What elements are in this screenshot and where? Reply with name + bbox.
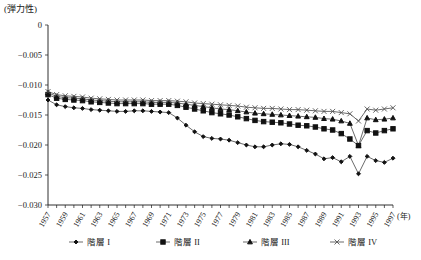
data-point-marker	[296, 123, 300, 127]
data-point-marker	[382, 160, 386, 164]
data-point-marker	[382, 128, 386, 132]
legend-label: 階層 IV	[348, 237, 378, 247]
data-point-marker	[322, 157, 326, 161]
data-point-marker	[270, 120, 274, 124]
data-point-marker	[248, 239, 253, 243]
data-point-marker	[235, 108, 240, 112]
y-tick-label: 0	[38, 20, 42, 30]
data-point-marker	[244, 109, 249, 113]
data-point-marker	[296, 114, 301, 118]
data-point-marker	[74, 240, 78, 244]
x-tick-label: 1993	[347, 211, 363, 229]
data-point-marker	[313, 152, 317, 156]
data-point-marker	[63, 105, 67, 109]
data-point-marker	[167, 111, 171, 115]
legend-label: 階層 II	[174, 237, 200, 247]
data-point-marker	[270, 112, 275, 116]
data-point-marker	[210, 136, 214, 140]
x-tick-label: 1961	[71, 211, 87, 229]
data-point-marker	[270, 143, 274, 147]
legend-label: 階層 I	[87, 237, 110, 247]
data-point-marker	[279, 121, 283, 125]
data-point-marker	[339, 118, 344, 122]
data-point-marker	[244, 143, 248, 147]
y-tick-label: −0.010	[18, 80, 42, 90]
legend-label: 階層 III	[261, 237, 290, 247]
data-point-marker	[391, 127, 395, 131]
data-point-marker	[81, 106, 85, 110]
data-point-marker	[279, 142, 283, 146]
data-point-marker	[236, 141, 240, 145]
data-point-marker	[278, 112, 283, 116]
data-point-marker	[287, 122, 291, 126]
x-tick-label: 1989	[313, 211, 329, 229]
data-point-marker	[322, 127, 326, 131]
data-point-marker	[313, 115, 318, 119]
data-point-marker	[253, 111, 258, 115]
y-tick-label: −0.030	[18, 200, 42, 210]
legend-item-1[interactable]: 階層 I	[69, 237, 110, 247]
data-point-marker	[150, 109, 154, 113]
data-point-marker	[262, 145, 266, 149]
legend-item-4[interactable]: 階層 IV	[330, 237, 378, 247]
x-tick-label: 1973	[175, 211, 191, 229]
data-point-marker	[330, 128, 334, 132]
data-point-marker	[365, 154, 369, 158]
data-point-marker	[72, 106, 76, 110]
legend-item-2[interactable]: 階層 II	[156, 237, 200, 247]
data-point-marker	[322, 116, 327, 120]
data-point-marker	[391, 115, 396, 119]
data-point-marker	[227, 113, 231, 117]
data-point-marker	[210, 110, 214, 114]
data-point-marker	[89, 108, 93, 112]
data-point-marker	[365, 115, 370, 119]
data-point-marker	[348, 154, 352, 158]
data-point-marker	[305, 124, 309, 128]
x-tick-label: 1971	[158, 211, 174, 229]
data-point-marker	[382, 117, 387, 121]
data-point-marker	[374, 159, 378, 163]
data-point-marker	[253, 118, 257, 122]
x-tick-label: 1987	[296, 211, 312, 229]
x-tick-label: 1997	[382, 211, 398, 229]
data-point-marker	[296, 145, 300, 149]
x-tick-label: 1957	[37, 211, 53, 229]
data-point-marker	[305, 148, 309, 152]
data-point-marker	[391, 156, 395, 160]
x-tick-label: 1979	[227, 211, 243, 229]
data-point-marker	[357, 172, 361, 176]
data-point-marker	[227, 138, 231, 142]
y-tick-label: −0.015	[18, 110, 42, 120]
elasticity-line-chart: (弾力性) 0−0.005−0.010−0.015−0.020−0.025−0.…	[0, 0, 421, 260]
data-point-marker	[55, 103, 59, 107]
data-point-marker	[219, 137, 223, 141]
data-point-marker	[98, 108, 102, 112]
y-tick-label: −0.005	[18, 50, 42, 60]
data-point-marker	[348, 137, 352, 141]
x-tick-label: 1981	[244, 211, 260, 229]
data-point-marker	[46, 98, 50, 102]
data-point-marker	[124, 109, 128, 113]
data-point-marker	[347, 121, 352, 125]
data-point-marker	[287, 113, 292, 117]
x-tick-label: 1975	[192, 211, 208, 229]
data-point-marker	[374, 131, 378, 135]
data-point-marker	[253, 145, 257, 149]
data-point-marker	[304, 114, 309, 118]
x-tick-label: 1995	[365, 211, 381, 229]
data-point-marker	[288, 142, 292, 146]
data-point-marker	[373, 117, 378, 121]
data-point-marker	[115, 109, 119, 113]
legend-item-3[interactable]: 階層 III	[243, 237, 290, 247]
data-point-marker	[106, 109, 110, 113]
data-point-marker	[261, 111, 266, 115]
data-point-marker	[339, 160, 343, 164]
x-tick-label: 1991	[330, 211, 346, 229]
y-tick-label: −0.025	[18, 170, 42, 180]
x-tick-label: 1977	[209, 211, 225, 229]
data-point-marker	[236, 115, 240, 119]
x-tick-label: 1963	[89, 211, 105, 229]
data-point-marker	[365, 128, 369, 132]
x-tick-label: 1959	[54, 211, 70, 229]
data-point-marker	[218, 112, 222, 116]
